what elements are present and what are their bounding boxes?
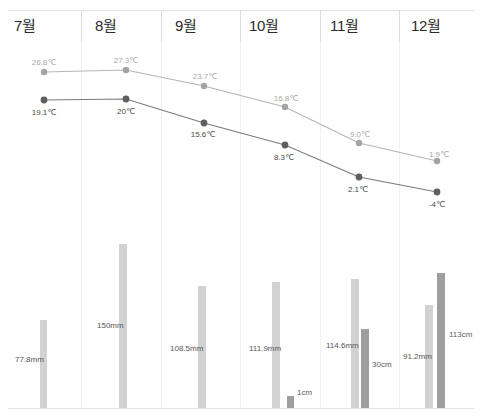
low-temp-label-8: 20℃ [117, 107, 135, 116]
rain-bar-7 [40, 320, 47, 408]
snow-bar-12 [437, 273, 445, 408]
high-temp-label-9: 23.7℃ [193, 72, 218, 81]
high-temp-point-7 [41, 69, 47, 75]
high-temp-label-7: 26.8℃ [32, 58, 57, 67]
low-temp-point-12 [434, 189, 441, 196]
low-temp-label-9: 15.6℃ [191, 130, 216, 139]
high-temp-label-12: 1.9℃ [429, 150, 449, 159]
low-temp-point-11 [356, 174, 363, 181]
high-temp-polyline [44, 70, 437, 161]
high-temp-point-8 [123, 67, 129, 73]
snow-bar-10 [287, 396, 294, 408]
snow-label-12: 113cm [449, 330, 472, 339]
rain-label-12: 91.2mm [403, 352, 432, 361]
high-temp-label-11: 9.0℃ [350, 130, 370, 139]
snow-label-11: 30cm [372, 360, 392, 369]
high-temp-point-10 [282, 104, 288, 110]
high-temp-point-11 [356, 140, 362, 146]
rain-label-10: 111.9mm [249, 344, 281, 353]
rain-label-9: 108.5mm [170, 344, 203, 353]
low-temp-label-12: -4℃ [429, 200, 445, 209]
low-temp-point-9 [201, 120, 208, 127]
high-temp-label-8: 27.3℃ [114, 56, 139, 65]
high-temp-point-9 [201, 83, 207, 89]
low-temp-label-7: 19.1℃ [32, 108, 57, 117]
high-temp-label-10: 16.8℃ [274, 94, 299, 103]
low-temp-label-10: 8.3℃ [274, 153, 294, 162]
low-temp-point-7 [41, 97, 48, 104]
weather-chart: 7월 8월 9월 10월 11월 12월 26.8℃ 27.3℃ 23.7℃ 1 [0, 0, 483, 416]
snow-label-10: 1cm [297, 388, 312, 397]
chart-baseline [8, 408, 475, 409]
rain-label-11: 114.6mm [326, 341, 359, 350]
snow-bar-11 [361, 329, 369, 408]
rain-label-8: 150mm [97, 321, 124, 330]
low-temp-label-11: 2.1℃ [348, 185, 368, 194]
low-temp-point-8 [123, 96, 130, 103]
rain-label-7: 77.8mm [15, 355, 44, 364]
low-temp-point-10 [282, 142, 289, 149]
low-temp-polyline [44, 99, 437, 192]
